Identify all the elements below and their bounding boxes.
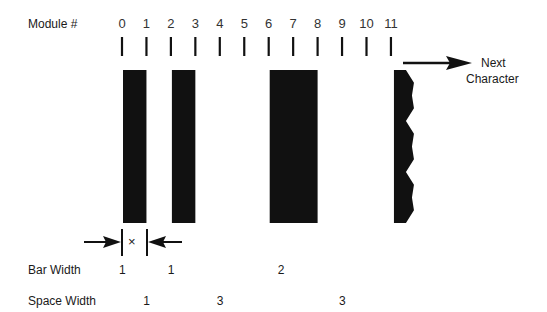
bar: [270, 70, 318, 223]
bar-width-value: 1: [168, 263, 175, 277]
bars: [123, 70, 414, 223]
bar-width-label: Bar Width: [28, 263, 81, 277]
next-label-line2: Character: [466, 72, 519, 86]
next-character-arrow: [403, 56, 472, 70]
module-ticks: [122, 37, 391, 56]
x-dimension-label: ×: [128, 234, 136, 249]
bar: [123, 70, 146, 223]
barcode-module-diagram: Module # 01234567891011 × Next Character…: [0, 0, 547, 312]
next-label-line1: Next: [481, 56, 506, 70]
space-width-value: 3: [217, 294, 224, 308]
diagram-graphics: [0, 0, 547, 312]
bar: [172, 70, 195, 223]
space-width-value: 3: [339, 294, 346, 308]
space-width-label: Space Width: [28, 294, 96, 308]
space-width-value: 1: [143, 294, 150, 308]
bar-width-value: 2: [278, 263, 285, 277]
bar-width-value: 1: [119, 263, 126, 277]
bar-jagged-edge: [394, 70, 414, 223]
